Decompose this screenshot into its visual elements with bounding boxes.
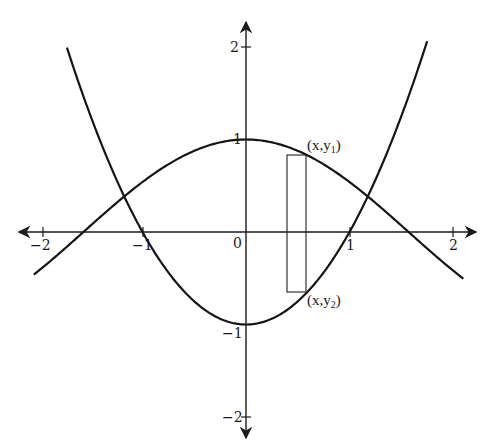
y-tick-label-2: 2	[230, 39, 239, 55]
origin-label: 0	[233, 235, 242, 251]
upper-point-label: (x,y1)	[307, 137, 341, 155]
y-tick-label-neg2: −2	[222, 409, 243, 425]
x-tick-label-neg2: −2	[30, 237, 51, 253]
cosine-curve	[34, 140, 464, 279]
x-tick-label-2: 2	[449, 237, 458, 253]
lower-point-label: (x,y2)	[307, 292, 341, 310]
y-tick-label-neg1: −1	[222, 325, 243, 341]
representative-rectangle	[287, 155, 306, 292]
parabola-curve	[67, 41, 427, 324]
function-graph: −2 −1 0 1 2 2 1 −1 −2 (x,y1) (x,y2)	[0, 0, 494, 447]
x-tick-label-1: 1	[346, 237, 355, 253]
